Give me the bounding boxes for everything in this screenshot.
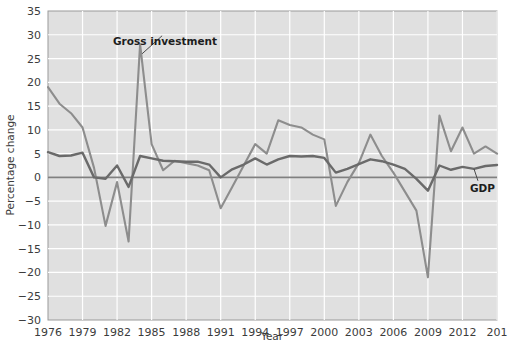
x-tick-label: 2009 bbox=[414, 326, 442, 339]
x-tick-label: 2012 bbox=[448, 326, 476, 339]
gdp-series-label: GDP bbox=[470, 182, 495, 194]
y-tick-label: 0 bbox=[34, 171, 41, 184]
y-tick-label: 25 bbox=[27, 53, 41, 66]
y-axis-tick-labels: 35302520151050−5−10−15−20−25−30 bbox=[18, 5, 41, 327]
gross-investment-series-label: Gross investment bbox=[113, 35, 217, 47]
y-axis-title: Percentage change bbox=[4, 114, 16, 215]
x-tick-label: 1982 bbox=[103, 326, 131, 339]
y-tick-label: 5 bbox=[34, 148, 41, 161]
x-tick-label: 2006 bbox=[379, 326, 407, 339]
y-tick-label: 10 bbox=[27, 124, 41, 137]
y-tick-label: −5 bbox=[25, 195, 41, 208]
chart-figure: 35302520151050−5−10−15−20−25−30 19761979… bbox=[0, 0, 512, 341]
y-tick-label: 30 bbox=[27, 29, 41, 42]
y-tick-label: −10 bbox=[18, 219, 41, 232]
x-tick-label: 1976 bbox=[34, 326, 62, 339]
y-tick-label: −15 bbox=[18, 243, 41, 256]
x-axis-title: Year bbox=[260, 330, 284, 341]
y-tick-label: 15 bbox=[27, 100, 41, 113]
plot-area-background bbox=[48, 11, 497, 320]
x-tick-label: 2003 bbox=[345, 326, 373, 339]
x-tick-label: 1991 bbox=[207, 326, 235, 339]
x-tick-label: 1979 bbox=[69, 326, 97, 339]
x-tick-label: 201 bbox=[487, 326, 508, 339]
y-tick-label: 20 bbox=[27, 76, 41, 89]
y-tick-label: −20 bbox=[18, 266, 41, 279]
y-tick-label: 35 bbox=[27, 5, 41, 18]
x-tick-label: 1988 bbox=[172, 326, 200, 339]
x-tick-label: 1985 bbox=[138, 326, 166, 339]
y-tick-label: −25 bbox=[18, 290, 41, 303]
x-tick-label: 2000 bbox=[310, 326, 338, 339]
line-chart-svg: 35302520151050−5−10−15−20−25−30 19761979… bbox=[0, 0, 512, 341]
